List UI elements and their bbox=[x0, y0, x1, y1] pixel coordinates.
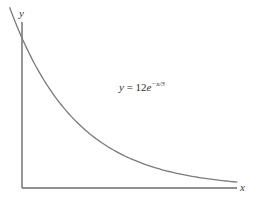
equation-exponent: −x/3 bbox=[152, 80, 165, 88]
equation-lhs: y bbox=[119, 81, 124, 93]
y-axis-label: y bbox=[19, 8, 24, 19]
equation-annotation: y = 12e−x/3 bbox=[119, 81, 165, 93]
equation-equals: = bbox=[127, 81, 133, 93]
exponential-decay-chart bbox=[0, 0, 264, 204]
decay-curve bbox=[10, 7, 238, 182]
equation-coefficient: 12 bbox=[136, 81, 147, 93]
x-axis-label: x bbox=[240, 182, 245, 193]
